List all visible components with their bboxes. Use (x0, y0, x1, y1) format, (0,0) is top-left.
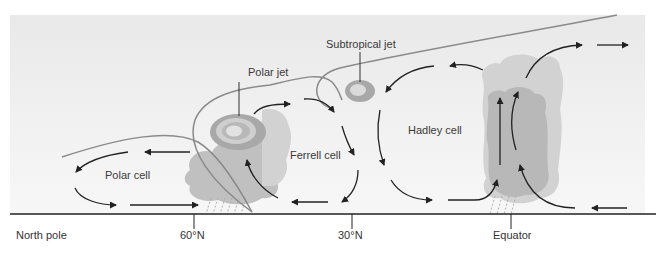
ferrell-cell-label: Ferrell cell (290, 149, 341, 161)
axis-label-30n: 30°N (338, 229, 363, 241)
axis-label-equator: Equator (493, 229, 532, 241)
subtropical-jet-label: Subtropical jet (326, 38, 396, 50)
polar-jet-label: Polar jet (248, 66, 288, 78)
polar-jet-icon (210, 114, 266, 150)
axis-label-north-pole: North pole (16, 229, 67, 241)
equator-cloud-icon (482, 54, 563, 203)
axis-label-60n: 60°N (180, 229, 205, 241)
subtropical-jet-icon (345, 80, 375, 102)
hadley-cell-label: Hadley cell (408, 124, 462, 136)
polar-cell-label: Polar cell (105, 169, 150, 181)
